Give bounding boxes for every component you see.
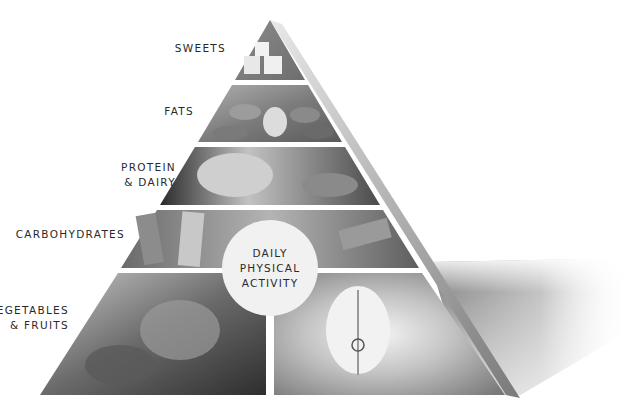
food-pyramid-graphic: SWEETS FATS PROTEIN & DAIRY CARBOHYDRATE… xyxy=(0,0,631,414)
tier-label-sweets: SWEETS xyxy=(175,41,226,56)
tier-label-fats: FATS xyxy=(164,104,194,119)
daily-physical-activity-badge: DAILY PHYSICAL ACTIVITY xyxy=(222,220,318,316)
tier-label-carbohydrates: CARBOHYDRATES xyxy=(16,227,125,242)
tier-label-protein-dairy: PROTEIN & DAIRY xyxy=(121,160,176,190)
pyramid-illustration xyxy=(0,0,631,414)
tier-label-vegetables-fruits: VEGETABLES & FRUITS xyxy=(0,303,69,333)
